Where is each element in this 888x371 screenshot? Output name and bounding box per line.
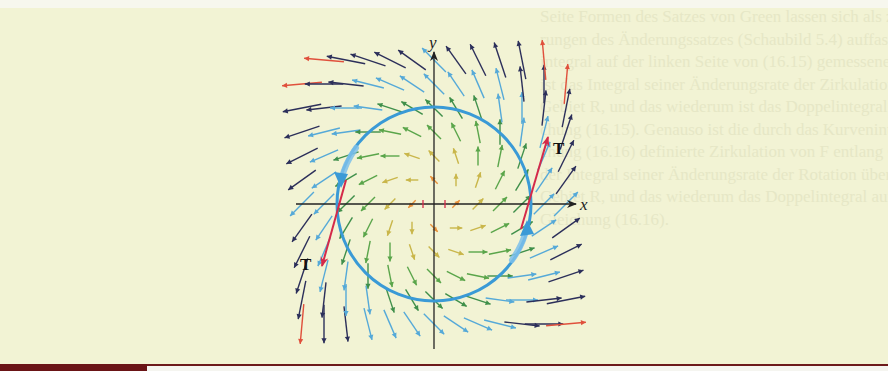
arrowhead-icon (499, 145, 504, 150)
arrowhead-icon (282, 83, 287, 88)
tangent-vector-left (322, 180, 346, 266)
arrowhead-icon (540, 40, 545, 45)
arrowhead-icon (475, 147, 480, 152)
arrowhead-icon (304, 56, 309, 61)
arrowhead-icon (283, 108, 288, 113)
field-arrow (446, 46, 466, 74)
arrowhead-icon (571, 166, 576, 172)
tangent-vector-right (521, 137, 548, 229)
field-arrow (547, 296, 585, 304)
field-arrow (351, 54, 386, 66)
arrowhead-icon (298, 339, 303, 344)
arrowhead-icon (495, 68, 500, 74)
arrowhead-icon (506, 248, 511, 253)
arrowhead-icon (544, 116, 549, 122)
arrowhead-icon (453, 174, 458, 179)
arrowhead-icon (357, 155, 362, 160)
bottom-color-block (0, 364, 147, 371)
arrowhead-icon (406, 177, 411, 182)
arrowhead-icon (580, 295, 585, 300)
field-arrow (549, 270, 584, 282)
field-arrow (564, 64, 568, 104)
arrowhead-icon (292, 236, 297, 242)
arrowhead-icon (483, 249, 488, 254)
arrowhead-icon (398, 50, 404, 55)
field-arrow (398, 50, 426, 70)
arrowhead-icon (321, 338, 326, 343)
bottom-margin (147, 366, 888, 371)
arrowhead-icon (364, 258, 369, 263)
arrowhead-icon (297, 314, 302, 319)
tangent-label-right: T (553, 139, 565, 158)
arrowhead-icon (381, 153, 386, 158)
field-arrow (283, 104, 321, 112)
arrowhead-icon (510, 324, 516, 329)
field-arrow (298, 281, 306, 319)
field-arrow (300, 304, 304, 344)
field-arrow (518, 41, 526, 79)
arrowhead-icon (352, 79, 358, 84)
y-axis-label: y (427, 33, 437, 52)
arrowhead-icon (566, 89, 571, 94)
field-arrow (552, 218, 580, 238)
arrowhead-icon (574, 218, 580, 223)
field-arrow (285, 126, 320, 138)
arrowhead-icon (305, 81, 310, 86)
arrowhead-icon (389, 282, 394, 287)
field-arrow (562, 89, 570, 127)
vector-field-figure: x y T T (0, 0, 888, 371)
arrowhead-icon (330, 105, 335, 110)
field-arrow (288, 170, 316, 190)
arrowhead-icon (554, 271, 560, 276)
arrowhead-icon (446, 46, 451, 52)
arrowhead-icon (308, 132, 314, 137)
tangent-label-left: T (300, 255, 312, 274)
arrowhead-icon (319, 286, 324, 292)
arrowhead-icon (581, 320, 586, 325)
arrowhead-icon (368, 334, 373, 340)
arrowhead-icon (457, 225, 462, 230)
arrowhead-icon (288, 185, 294, 190)
arrowhead-icon (409, 229, 414, 234)
x-axis-label: x (579, 195, 588, 214)
arrowhead-icon (517, 41, 522, 46)
arrowhead-icon (387, 257, 392, 262)
arrowhead-icon (474, 121, 479, 126)
arrowhead-icon (327, 55, 332, 60)
arrowhead-icon (565, 64, 570, 69)
